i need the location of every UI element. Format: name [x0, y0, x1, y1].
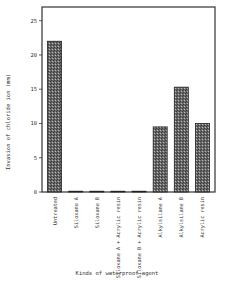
y-tick-label: 10 — [30, 120, 37, 126]
x-tick-label: Siloxane A + Acrylic resin — [115, 197, 122, 278]
y-axis-label: Invasion of chloride ion (mm) — [5, 74, 11, 170]
x-tick-label: Untreated — [52, 197, 58, 225]
y-tick-label: 25 — [30, 18, 37, 24]
y-tick-label: 20 — [30, 52, 37, 58]
bar — [90, 191, 104, 192]
plot-border — [42, 7, 215, 192]
chart-plot-area: 0510152025 UntreatedSiloxane ASiloxane B… — [0, 0, 234, 294]
bar — [111, 191, 125, 192]
x-tick-label: Alkylsilane B — [178, 197, 185, 238]
x-axis-label: Kinds of waterproof agent — [0, 270, 234, 276]
y-tick-label: 0 — [34, 189, 37, 195]
y-tick-label: 15 — [30, 86, 37, 92]
bar — [132, 191, 146, 192]
bar — [174, 87, 188, 192]
bar-chart: 0510152025 UntreatedSiloxane ASiloxane B… — [0, 0, 234, 294]
bar — [153, 127, 167, 192]
x-tick-label: Siloxane A — [73, 196, 79, 228]
x-tick-label: Siloxane B — [94, 197, 100, 228]
bar — [48, 41, 62, 192]
y-axis: 0510152025 — [30, 18, 42, 195]
x-tick-label: Alkylsilane A — [157, 196, 164, 237]
x-tick-label: Acrylic resin — [199, 197, 206, 238]
x-tick-label: Siloxane B + Acrylic resin — [136, 197, 143, 278]
bars — [48, 41, 210, 192]
plot-frame — [42, 7, 215, 192]
y-tick-label: 5 — [34, 155, 37, 161]
bar — [195, 123, 209, 192]
x-axis-tick-labels: UntreatedSiloxane ASiloxane BSiloxane A … — [52, 196, 207, 278]
bar — [69, 191, 83, 192]
